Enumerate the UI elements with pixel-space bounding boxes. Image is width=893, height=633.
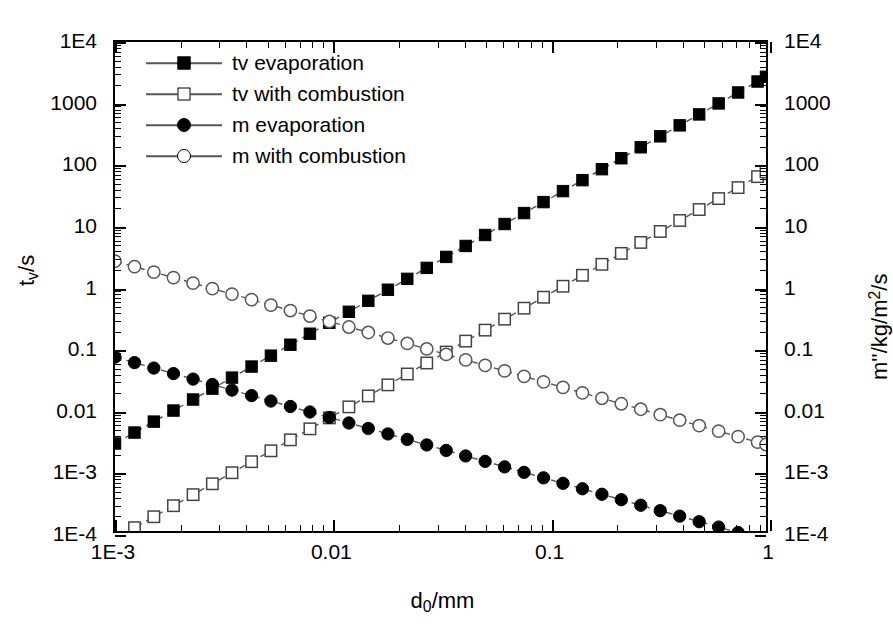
y-axis-right-tick xyxy=(760,375,766,376)
x-axis-top-tick xyxy=(219,42,220,48)
data-point-marker xyxy=(537,376,549,388)
data-point-marker xyxy=(518,370,530,382)
x-axis-tick xyxy=(722,525,723,531)
data-point-marker xyxy=(401,337,413,349)
x-axis-top-tick xyxy=(399,42,400,48)
data-point-marker xyxy=(246,361,257,372)
data-point-marker xyxy=(760,71,766,82)
data-point-marker xyxy=(401,433,413,445)
y-axis-tick xyxy=(115,117,121,118)
y-axis-tick xyxy=(115,190,121,191)
y-axis-right-tick xyxy=(755,412,766,414)
y-axis-tick xyxy=(115,418,121,419)
data-point-marker xyxy=(654,409,666,421)
x-axis-tick xyxy=(285,525,286,531)
data-point-marker xyxy=(557,477,569,489)
y-axis-right-tick xyxy=(760,245,766,246)
y-axis-right-tick xyxy=(760,498,766,499)
y-axis-tick xyxy=(115,259,121,260)
y-axis-right-tick xyxy=(760,313,766,314)
y-axis-tick xyxy=(115,382,121,383)
y-axis-tick xyxy=(115,233,121,234)
y-axis-tick xyxy=(115,498,121,499)
data-point-marker xyxy=(498,365,510,377)
data-point-marker xyxy=(402,368,413,379)
y-axis-right-tick xyxy=(760,230,766,231)
y-axis-tick xyxy=(115,425,121,426)
y-axis-tick xyxy=(115,506,121,507)
data-point-marker xyxy=(557,381,569,393)
legend-label: m evaporation xyxy=(232,113,365,137)
y-axis-right-tick-label: 0.1 xyxy=(776,338,813,359)
y-axis-right-tick xyxy=(760,415,766,416)
y-axis-right-tick xyxy=(755,104,766,106)
y-axis-right-tick xyxy=(760,74,766,75)
data-point-marker xyxy=(128,260,140,272)
x-axis-top-tick xyxy=(518,42,519,48)
y-axis-left-tick-label: 0.01 xyxy=(0,399,105,420)
y-axis-right-tick xyxy=(760,67,766,68)
data-point-marker xyxy=(674,215,685,226)
y-axis-right-tick xyxy=(760,117,766,118)
data-point-marker xyxy=(460,335,471,346)
x-axis-top-tick xyxy=(465,42,466,48)
y-axis-right-tick xyxy=(760,122,766,123)
y-axis-right-tick-label: 1E4 xyxy=(776,30,821,51)
y-axis-tick xyxy=(115,208,121,209)
data-point-marker xyxy=(363,295,374,306)
data-point-marker xyxy=(693,420,705,432)
x-axis-tick xyxy=(333,520,335,531)
y-axis-right-tick-label: 0.01 xyxy=(776,399,825,420)
y-axis-tick xyxy=(115,251,121,252)
y-axis-tick xyxy=(115,74,121,75)
y-axis-right-tick xyxy=(760,236,766,237)
data-point-marker xyxy=(654,505,666,517)
x-axis-top-tick xyxy=(656,42,657,48)
x-axis-top-tick xyxy=(115,42,117,53)
y-axis-tick xyxy=(115,197,121,198)
data-point-marker xyxy=(713,193,724,204)
y-axis-right-tick xyxy=(760,208,766,209)
data-point-marker xyxy=(732,87,743,98)
data-point-marker xyxy=(421,439,433,451)
data-point-marker xyxy=(635,237,646,248)
y-axis-tick xyxy=(115,375,121,376)
data-point-marker xyxy=(421,357,432,368)
x-axis-top-tick xyxy=(760,42,761,48)
x-axis-top-tick xyxy=(617,42,618,48)
data-point-marker xyxy=(577,174,588,185)
y-axis-tick xyxy=(115,473,126,475)
y-axis-right-tick xyxy=(755,165,766,167)
data-point-marker xyxy=(616,248,627,259)
y-axis-tick xyxy=(115,106,121,107)
y-axis-tick xyxy=(115,298,121,299)
y-axis-tick xyxy=(115,128,121,129)
x-axis-tick xyxy=(617,525,618,531)
x-axis-tick xyxy=(749,525,750,531)
y-axis-tick xyxy=(115,313,121,314)
y-axis-tick xyxy=(115,421,121,422)
x-axis-top-tick xyxy=(552,42,554,53)
y-axis-right-tick xyxy=(760,106,766,107)
series-open-circle xyxy=(115,255,766,451)
data-point-marker xyxy=(129,522,140,531)
x-axis-tick xyxy=(736,525,737,531)
series-filled-circle xyxy=(115,351,766,531)
legend-item-m-evaporation: m evaporation xyxy=(146,112,406,138)
y-axis-right-tick xyxy=(760,364,766,365)
data-point-marker xyxy=(304,328,315,339)
data-point-marker xyxy=(460,240,471,251)
data-point-marker xyxy=(732,182,743,193)
data-point-marker xyxy=(537,472,549,484)
y-axis-tick xyxy=(115,171,121,172)
x-axis-top-tick xyxy=(770,42,772,53)
y-axis-tick xyxy=(115,412,126,414)
data-point-marker xyxy=(498,461,510,473)
x-axis-top-tick xyxy=(300,42,301,48)
y-axis-tick xyxy=(115,230,121,231)
x-axis-top-tick xyxy=(683,42,684,48)
y-axis-left-tick-label: 1E-3 xyxy=(0,461,105,482)
chart-legend: tv evaporation tv with combustion m evap… xyxy=(146,50,406,169)
y-axis-tick xyxy=(115,393,121,394)
data-point-marker xyxy=(265,299,277,311)
